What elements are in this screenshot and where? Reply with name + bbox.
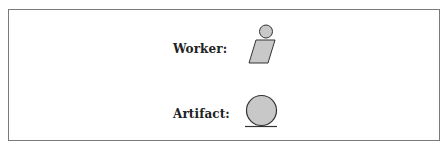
artifact-icon — [245, 96, 277, 127]
worker-icon — [249, 25, 275, 63]
